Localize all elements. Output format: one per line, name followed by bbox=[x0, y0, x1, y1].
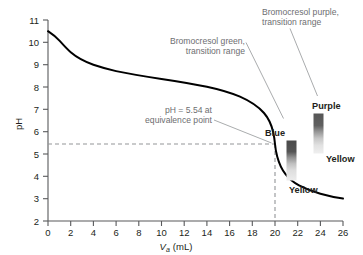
y-axis-ticks bbox=[43, 20, 48, 221]
bromocresol-purple-swatch bbox=[314, 114, 324, 154]
bromocresol-green-swatch-group: Blue Yellow bbox=[265, 128, 318, 195]
bromocresol-green-annotation-line1: Bromocresol green, bbox=[170, 36, 245, 46]
y-tick-label: 4 bbox=[34, 171, 39, 182]
x-tick-label: 24 bbox=[315, 227, 326, 238]
y-tick-label: 10 bbox=[28, 37, 39, 48]
x-tick-label: 8 bbox=[136, 227, 141, 238]
bromocresol-green-annotation-line2: transition range bbox=[186, 46, 245, 56]
x-tick-label: 26 bbox=[338, 227, 349, 238]
x-tick-label: 20 bbox=[270, 227, 281, 238]
titration-curve-figure: 11 10 9 8 7 6 5 4 3 2 bbox=[0, 0, 363, 255]
bromocresol-green-leader-line bbox=[246, 43, 284, 119]
bromocresol-green-top-label: Blue bbox=[265, 128, 285, 138]
bromocresol-purple-leader-line bbox=[290, 29, 318, 97]
x-tick-label: 10 bbox=[156, 227, 167, 238]
y-tick-label: 3 bbox=[34, 193, 39, 204]
x-tick-label: 16 bbox=[224, 227, 235, 238]
x-tick-label: 14 bbox=[202, 227, 213, 238]
bromocresol-purple-annotation-line2: transition range bbox=[262, 17, 321, 27]
y-axis-tick-labels: 11 10 9 8 7 6 5 4 3 2 bbox=[28, 15, 39, 227]
bromocresol-purple-bottom-label: Yellow bbox=[326, 154, 355, 164]
y-tick-label: 8 bbox=[34, 82, 39, 93]
chart-svg: 11 10 9 8 7 6 5 4 3 2 bbox=[0, 0, 363, 255]
x-tick-label: 6 bbox=[113, 227, 118, 238]
x-tick-label: 4 bbox=[91, 227, 96, 238]
bromocresol-green-swatch bbox=[287, 141, 297, 181]
bromocresol-purple-annotation: Bromocresol purple, transition range bbox=[262, 7, 339, 27]
bromocresol-green-annotation: Bromocresol green, transition range bbox=[170, 36, 245, 56]
y-tick-label: 9 bbox=[34, 59, 39, 70]
eq-point-annotation: pH = 5.54 at equivalence point bbox=[145, 105, 213, 125]
x-tick-label: 12 bbox=[179, 227, 190, 238]
x-axis-ticks bbox=[48, 221, 343, 226]
eq-point-annotation-line1: pH = 5.54 at bbox=[165, 105, 213, 115]
eq-point-leader-line bbox=[214, 120, 272, 143]
x-axis-title-unit: (mL) bbox=[173, 241, 193, 252]
eq-point-annotation-line2: equivalence point bbox=[145, 115, 213, 125]
bromocresol-purple-swatch-group: Purple Yellow bbox=[312, 101, 355, 164]
y-tick-label: 6 bbox=[34, 126, 39, 137]
x-axis-title: Va(mL) bbox=[160, 241, 193, 253]
y-tick-label: 11 bbox=[29, 15, 39, 26]
x-axis-title-sub: a bbox=[166, 246, 170, 253]
bromocresol-purple-annotation-line1: Bromocresol purple, bbox=[262, 7, 339, 17]
y-tick-label: 2 bbox=[34, 216, 39, 227]
y-tick-label: 7 bbox=[34, 104, 39, 115]
bromocresol-purple-top-label: Purple bbox=[312, 101, 341, 111]
x-tick-label: 0 bbox=[45, 227, 50, 238]
x-tick-label: 22 bbox=[292, 227, 303, 238]
y-tick-label: 5 bbox=[34, 149, 39, 160]
x-axis-tick-labels: 0 2 4 6 8 10 12 14 16 18 20 22 24 26 bbox=[45, 227, 348, 238]
bromocresol-green-bottom-label: Yellow bbox=[289, 185, 318, 195]
x-tick-label: 2 bbox=[68, 227, 73, 238]
y-axis-title: pH bbox=[13, 118, 24, 130]
svg-text:Va(mL): Va(mL) bbox=[160, 241, 193, 253]
x-tick-label: 18 bbox=[247, 227, 258, 238]
